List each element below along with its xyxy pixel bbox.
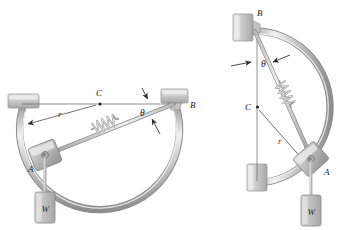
figure-root: C r θ A <box>0 0 354 230</box>
left-center-point <box>99 103 102 106</box>
right-panel: B C r θ <box>231 8 330 226</box>
right-label-angle: θ <box>261 59 266 69</box>
right-angle-indicator: θ <box>231 55 290 69</box>
left-weight-block: W <box>35 192 55 223</box>
right-label-radius: r <box>278 136 282 146</box>
right-label-center: C <box>245 102 252 112</box>
left-label-collar: A <box>27 164 34 174</box>
right-label-pivot: B <box>257 8 263 18</box>
left-label-pivot: B <box>190 100 196 110</box>
right-label-collar: A <box>323 167 330 177</box>
left-label-angle: θ <box>140 108 145 118</box>
left-support-block-a <box>8 94 39 108</box>
mechanics-diagram: C r θ A <box>0 0 354 230</box>
left-label-radius: r <box>58 109 62 119</box>
left-label-center: C <box>96 88 103 98</box>
right-center-point <box>256 106 259 109</box>
left-panel: C r θ A <box>8 88 188 223</box>
right-weight-block: W <box>301 195 321 226</box>
